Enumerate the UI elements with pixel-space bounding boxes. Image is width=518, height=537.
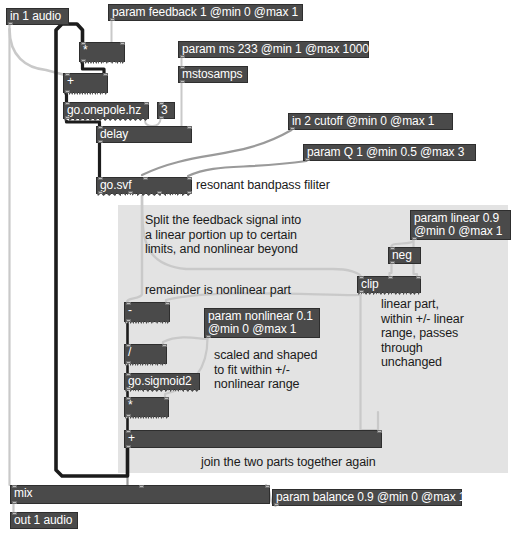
object-paramlin[interactable]: param linear 0.9 @min 0 @max 1 [410,210,511,240]
inlet-0[interactable] [126,397,131,400]
outlet-0[interactable] [98,140,103,143]
object-three[interactable]: 3 [157,102,175,119]
patcher-canvas[interactable]: in 1 audioparam feedback 1 @min 0 @max 1… [0,0,518,537]
object-add1[interactable]: + [63,73,108,93]
object-svf[interactable]: go.svf [96,177,192,194]
inlet-0[interactable] [180,66,185,69]
inlet-0[interactable] [159,102,164,105]
object-label: go.onepole.hz [67,104,145,117]
object-sub[interactable]: - [124,302,170,322]
outlet-0[interactable] [8,22,13,25]
object-div[interactable]: / [124,344,167,364]
object-label: go.svf [100,179,188,192]
outlet-0[interactable] [274,503,279,506]
object-label: * [128,399,165,412]
object-addwide[interactable]: + [124,430,382,448]
inlet-1[interactable] [120,42,125,45]
outlet-1[interactable] [128,191,133,194]
outlet-0[interactable] [290,127,295,130]
inlet-1[interactable] [165,302,170,305]
inlet-0[interactable] [390,247,395,250]
object-label: delay [100,128,188,141]
object-label: + [67,75,104,88]
object-in2[interactable]: in 2 cutoff @min 0 @max 1 [288,113,453,130]
inlet-1[interactable] [162,344,167,347]
object-parambal[interactable]: param balance 0.9 @min 0 @max 1 [272,489,462,506]
object-label: in 1 audio [10,10,65,23]
object-label: go.sigmoid2 [128,375,196,388]
object-sigmoid[interactable]: go.sigmoid2 [124,373,200,390]
outlet-0[interactable] [390,261,395,264]
inlet-1[interactable] [143,177,148,180]
object-onepole[interactable]: go.onepole.hz [63,102,149,119]
outlet-0[interactable] [180,80,185,83]
outlet-0[interactable] [126,361,131,364]
outlet-0[interactable] [126,319,131,322]
object-parammx[interactable]: param ms 233 @min 1 @max 1000 [178,41,369,58]
inlet-1[interactable] [164,397,169,400]
inlet-0[interactable] [98,126,103,129]
object-label: clip [361,278,417,291]
inlet-0[interactable] [65,102,70,105]
inlet-1[interactable] [139,485,144,488]
inlet-0[interactable] [12,512,17,515]
object-label: param nonlinear 0.1 @min 0 @max 1 [208,310,316,336]
outlet-0[interactable] [180,55,185,58]
outlet-3[interactable] [187,191,192,194]
object-paramq[interactable]: param Q 1 @min 0.5 @max 3 [303,144,476,161]
outlet-0[interactable] [81,59,86,62]
object-label: param Q 1 @min 0.5 @max 3 [307,146,472,159]
outlet-0[interactable] [110,18,115,21]
inlet-0[interactable] [359,276,364,279]
inlet-0[interactable] [126,373,131,376]
inlet-1[interactable] [377,430,382,433]
outlet-0[interactable] [98,191,103,194]
outlet-0[interactable] [206,335,211,338]
object-label: param balance 0.9 @min 0 @max 1 [276,491,458,504]
object-label: mstosamps [182,68,244,81]
object-clip[interactable]: clip [357,276,421,293]
outlet-0[interactable] [12,501,17,504]
comment-c-scaled: scaled and shaped to fit within +/- nonl… [214,348,317,392]
comment-c-bandpass: resonant bandpass filiter [196,178,330,193]
comment-c-join: join the two parts together again [201,455,376,470]
inlet-0[interactable] [12,485,17,488]
object-paramfb[interactable]: param feedback 1 @min 0 @max 1 [108,4,303,21]
object-out1[interactable]: out 1 audio [10,512,78,529]
comment-c-split: Split the feedback signal into a linear … [145,213,301,257]
outlet-0[interactable] [412,237,417,240]
comment-c-remainder: remainder is nonlinear part [145,283,291,298]
object-mul1[interactable]: * [79,42,125,62]
object-label: mix [14,487,266,500]
object-delay[interactable]: delay [96,126,192,143]
object-mix[interactable]: mix [10,485,270,504]
object-paramnl[interactable]: param nonlinear 0.1 @min 0 @max 1 [204,308,320,338]
outlet-2[interactable] [157,191,162,194]
inlet-0[interactable] [98,177,103,180]
object-neg[interactable]: neg [388,247,421,264]
inlet-1[interactable] [388,276,393,279]
inlet-0[interactable] [126,344,131,347]
outlet-0[interactable] [126,414,131,417]
inlet-0[interactable] [126,302,131,305]
object-label: * [83,44,121,57]
object-in1[interactable]: in 1 audio [6,8,69,25]
inlet-2[interactable] [265,485,270,488]
inlet-1[interactable] [187,126,192,129]
inlet-0[interactable] [126,430,131,433]
outlet-0[interactable] [65,90,70,93]
outlet-0[interactable] [159,116,164,119]
object-mstosamps[interactable]: mstosamps [178,66,248,83]
outlet-0[interactable] [126,445,131,448]
inlet-0[interactable] [81,42,86,45]
inlet-1[interactable] [103,73,108,76]
outlet-0[interactable] [305,158,310,161]
outlet-0[interactable] [359,290,364,293]
inlet-2[interactable] [187,177,192,180]
object-mul2[interactable]: * [124,397,169,417]
outlet-0[interactable] [65,116,70,119]
inlet-0[interactable] [65,73,70,76]
inlet-2[interactable] [416,276,421,279]
outlet-0[interactable] [126,387,131,390]
inlet-1[interactable] [144,102,149,105]
